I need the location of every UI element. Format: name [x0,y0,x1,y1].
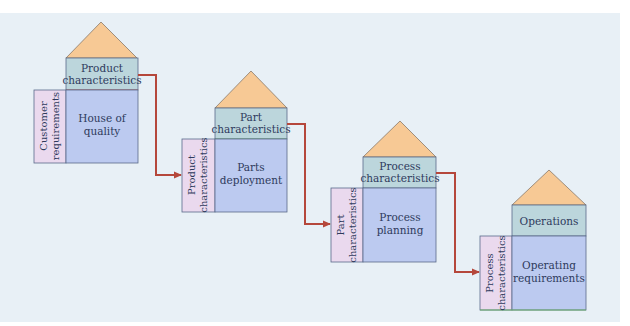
house-1-top-label-2: characteristics [62,74,141,86]
house-2-top-label-2: characteristics [211,123,290,135]
house-3-top-label: Process [379,160,420,172]
house-3-roof [363,121,436,157]
house-2-top-label: Part [240,111,263,123]
house-3-main-label-2: planning [377,224,424,236]
house-2-side-label-2: characteristics [198,137,209,212]
house-3-main-label: Process [379,211,420,223]
house-1-roof [66,22,137,58]
qfd-cascade-diagram: Product characteristics House of quality… [0,0,630,326]
house-2-main-label: Parts [237,161,264,173]
house-1-side-label-2: requirements [50,92,61,160]
house-4-top-label: Operations [520,215,579,227]
house-2-parts-deployment: Part characteristics Parts deployment Pr… [182,71,291,213]
house-1-house-of-quality: Product characteristics House of quality… [34,22,142,163]
house-2-roof [215,71,287,108]
arrow-3 [436,173,479,272]
house-4-side-label: Process [484,253,495,292]
house-3-process-planning: Process characteristics Process planning… [331,121,440,263]
house-4-main-label: Operating [522,259,576,271]
house-3-side-label-2: characteristics [347,187,358,262]
house-1-main-label-2: quality [84,125,121,137]
house-4-side-label-2: characteristics [496,235,507,310]
house-3-top-label-2: characteristics [360,172,439,184]
house-1-side-label: Customer [38,101,49,151]
house-4-main-label-2: requirements [513,272,585,284]
arrow-1 [138,75,181,175]
house-4-roof [512,170,586,205]
house-1-main-label: House of [78,112,127,124]
house-2-main-label-2: deployment [220,174,283,186]
house-4-operations: Operations Operating requirements Proces… [480,170,586,311]
house-2-side-label: Product [186,155,197,195]
house-1-top-label: Product [81,62,124,74]
arrow-2 [287,124,330,224]
house-3-side-label: Part [335,214,346,235]
